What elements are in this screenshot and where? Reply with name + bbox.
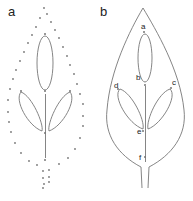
point-label-f: f bbox=[139, 153, 142, 162]
point-label-b: b bbox=[136, 73, 141, 82]
panel-b: b a b c d e f bbox=[100, 4, 184, 188]
apex-dot-a bbox=[44, 33, 46, 35]
base-dot-a bbox=[44, 90, 46, 92]
panel-a: a bbox=[7, 4, 84, 189]
leaf-outline-right bbox=[143, 8, 184, 188]
midrib-end-dot-a bbox=[44, 159, 46, 161]
leaf-outline-left bbox=[107, 8, 143, 188]
point-label-d: d bbox=[114, 81, 118, 90]
right-leaflet-a bbox=[49, 92, 72, 131]
left-leaflet-b bbox=[118, 89, 143, 129]
point-label-e: e bbox=[137, 127, 142, 136]
point-label-c: c bbox=[172, 78, 176, 87]
point-label-a: a bbox=[141, 22, 146, 31]
leaf-diagram: a bbox=[0, 0, 193, 201]
central-leaflet-a bbox=[37, 36, 53, 90]
panel-b-label: b bbox=[100, 4, 107, 19]
right-leaflet-b bbox=[148, 89, 172, 129]
left-leaflet-a bbox=[19, 92, 42, 131]
panel-a-label: a bbox=[8, 4, 16, 19]
